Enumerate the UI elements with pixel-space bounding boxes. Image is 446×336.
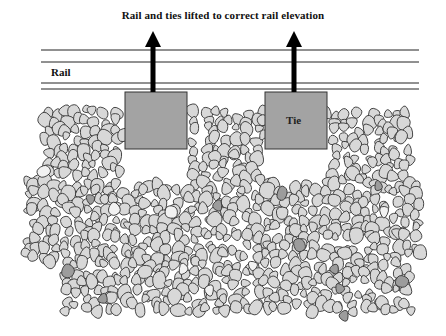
ballast-stone (43, 255, 56, 269)
ballast-stone (211, 106, 220, 115)
ballast-stone (405, 249, 413, 257)
ballast-stone (50, 207, 60, 216)
ballast-stone (63, 132, 70, 140)
ballast-stone (378, 259, 388, 271)
ballast-stone (355, 291, 362, 299)
ballast-stone (111, 230, 120, 242)
ballast-stone (360, 144, 368, 154)
ballast-stone (370, 194, 380, 206)
ballast-stone (361, 275, 369, 283)
ballast-stone (381, 304, 390, 315)
ballast-stone (100, 259, 108, 267)
ballast-stone (61, 283, 71, 295)
ballast-stone (189, 266, 199, 276)
ballast-stone (168, 288, 182, 305)
ballast-stone (190, 122, 199, 134)
ballast-stone (290, 284, 298, 296)
diagram-title: Rail and ties lifted to correct rail ele… (0, 9, 446, 21)
ballast-stone (300, 289, 306, 297)
ballast-stone (323, 230, 333, 239)
ballast-stone (198, 260, 206, 268)
ballast-stone (71, 288, 81, 298)
ballast-stone (413, 245, 426, 260)
ballast-stone (338, 123, 349, 132)
ballast-stone (115, 165, 124, 178)
ballast-stone (240, 132, 250, 145)
ballast-stone (188, 138, 196, 147)
ballast-stone (395, 276, 408, 288)
ballast-stone (350, 276, 357, 283)
ballast-stone (169, 260, 180, 270)
ballast-stone (393, 196, 403, 207)
ballast-stone (87, 106, 96, 115)
ballast-stone (268, 276, 280, 288)
ballast-stone (350, 202, 361, 215)
diagram-canvas (0, 0, 446, 336)
ballast-stone (153, 271, 166, 289)
ballast-stone (171, 184, 179, 195)
ballast-stone (186, 104, 199, 118)
ballast-stone (241, 279, 250, 286)
rail-label: Rail (51, 66, 71, 78)
ballast-stone (370, 242, 377, 250)
arrow-up-icon (145, 31, 161, 47)
ballast-stone (387, 170, 399, 181)
ballast-stone (217, 120, 227, 133)
ballast-stone (399, 160, 409, 171)
ballast-stone (81, 303, 91, 312)
ballast-stone (380, 206, 389, 217)
ballast-stone (228, 280, 239, 290)
ballast-stone (133, 284, 142, 295)
ballast-stone (97, 107, 108, 119)
ballast-stone (351, 107, 361, 118)
ballast-stone (242, 228, 253, 241)
ballast-stone (373, 204, 379, 213)
ballast-stone (188, 206, 196, 214)
ballast-stone (218, 167, 229, 177)
ballast-stone (170, 304, 187, 317)
ballast-stone (230, 216, 240, 226)
ballast-stone (278, 302, 291, 314)
ballast-stone (209, 130, 220, 143)
ballast-stone (249, 300, 263, 315)
ballast-stone (292, 299, 301, 309)
ballast-stone (401, 217, 409, 228)
ballast-stone (389, 213, 397, 223)
ballast-stone (342, 141, 349, 148)
ballast-stone (243, 240, 251, 250)
ballast-stone (260, 258, 269, 268)
ballast-stone (59, 167, 71, 179)
ballast-stone (328, 194, 341, 206)
ballast-stone (349, 228, 363, 244)
ballast-stone (135, 303, 145, 318)
ballast-stone (404, 144, 412, 155)
rail-lines (41, 50, 419, 89)
ballast-stone (262, 248, 269, 257)
ballast-stone (209, 160, 219, 169)
ballast-stone (308, 206, 317, 216)
arrow-shaft (292, 45, 297, 92)
ballast-stone (111, 114, 120, 125)
ballast-stone (113, 216, 120, 223)
ballast-stone (230, 301, 242, 313)
ballast-stone (219, 305, 230, 317)
ballast-stone (27, 203, 37, 216)
ballast-stone (138, 184, 147, 195)
ballast-stone (60, 307, 69, 316)
ballast-stone (237, 186, 245, 194)
ballast-stone (165, 206, 177, 218)
ballast-bed (21, 104, 427, 321)
ballast-stone (395, 130, 407, 144)
arrow-shaft (151, 45, 156, 92)
tie-label: Tie (286, 114, 301, 126)
track-lift-diagram: Rail and ties lifted to correct rail ele… (0, 0, 446, 336)
ballast-stone (328, 135, 338, 144)
ballast-stone (111, 304, 122, 316)
ballast-stone (109, 257, 120, 269)
left-tie (125, 92, 187, 149)
ballast-stone (77, 255, 88, 269)
ballast-stone (44, 148, 55, 158)
ballast-stone (294, 239, 306, 252)
ballast-stone (223, 234, 230, 241)
ballast-stone (240, 251, 248, 260)
